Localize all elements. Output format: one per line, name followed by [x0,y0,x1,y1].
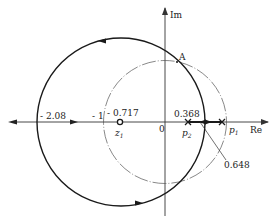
z1-subscript: 1 [120,132,124,139]
zero-marker-icon [117,119,122,124]
locus-arrow-top-icon [98,39,106,44]
root-locus-diagram: z1 p2 p1 A - 2.08 - 1 - 0.717 0.368 0.64… [0,0,277,223]
real-axis-locus-segment [188,120,222,125]
imag-axis-label: Im [170,10,183,20]
label-neg-0-717: - 0.717 [107,108,139,118]
point-a-label: A [178,52,186,62]
label-neg-1: - 1 [92,111,104,121]
label-neg-2-08: - 2.08 [40,111,66,121]
svg-text:p2: p2 [182,128,192,139]
label-0-648: 0.648 [224,160,250,170]
label-0-368: 0.368 [174,109,200,119]
svg-text:z1: z1 [114,128,124,139]
point-a-marker [176,61,178,63]
svg-text:p1: p1 [229,125,239,136]
p1-subscript: 1 [235,129,239,136]
p2-subscript: 2 [187,132,192,139]
real-axis-label: Re [250,125,262,135]
breakaway-leader-line [200,122,226,160]
origin-label: 0 [159,124,165,134]
